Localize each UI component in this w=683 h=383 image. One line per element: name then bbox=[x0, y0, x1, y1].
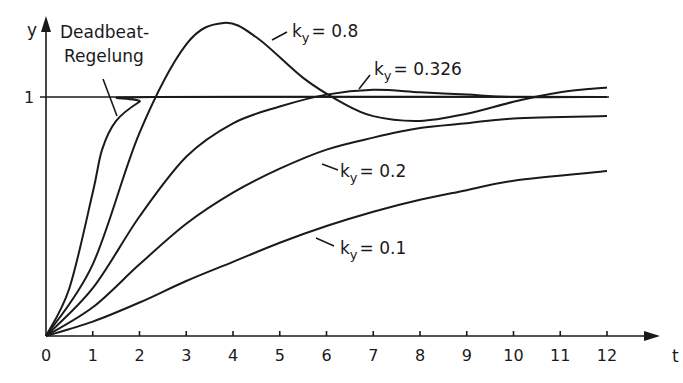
x-tick-label: 0 bbox=[41, 346, 51, 365]
x-tick-label: 12 bbox=[597, 346, 617, 365]
x-tick-label: 9 bbox=[462, 346, 472, 365]
x-tick-label: 3 bbox=[181, 346, 191, 365]
x-tick-label: 7 bbox=[368, 346, 378, 365]
x-tick-label: 10 bbox=[503, 346, 523, 365]
deadbeat-label-line2: Regelung bbox=[64, 46, 144, 66]
curve-k-y-0.326 bbox=[46, 90, 607, 336]
svg-text:ky= 0.2: ky= 0.2 bbox=[340, 161, 406, 185]
curve-deadbeat-regelung bbox=[46, 97, 607, 336]
label-ky-0.8: ky= 0.8 bbox=[272, 21, 358, 45]
deadbeat-label-line1: Deadbeat- bbox=[60, 22, 149, 42]
x-tick-label: 11 bbox=[550, 346, 570, 365]
curve-k-y-0.1 bbox=[46, 171, 607, 336]
x-tick-label: 4 bbox=[228, 346, 238, 365]
step-response-chart: y t 1 0123456789101112 Deadbeat- Regelun… bbox=[0, 0, 683, 383]
y-tick-1: 1 bbox=[24, 88, 34, 107]
x-axis-arrow-icon bbox=[644, 331, 660, 341]
svg-text:ky= 0.1: ky= 0.1 bbox=[340, 238, 406, 262]
y-axis-arrow-icon bbox=[41, 16, 51, 32]
label-ky-0.326: ky= 0.326 bbox=[359, 59, 462, 89]
y-axis-label: y bbox=[27, 20, 37, 40]
label-ky-0.1: ky= 0.1 bbox=[316, 238, 406, 262]
x-tick-label: 6 bbox=[321, 346, 331, 365]
curves bbox=[46, 23, 607, 336]
x-tick-label: 5 bbox=[275, 346, 285, 365]
x-tick-label: 2 bbox=[134, 346, 144, 365]
svg-text:ky= 0.8: ky= 0.8 bbox=[292, 21, 358, 45]
x-tick-label: 8 bbox=[415, 346, 425, 365]
svg-text:ky= 0.326: ky= 0.326 bbox=[374, 59, 462, 83]
x-tick-label: 1 bbox=[88, 346, 98, 365]
label-ky-0.2: ky= 0.2 bbox=[322, 161, 406, 185]
x-axis-label: t bbox=[672, 346, 679, 366]
